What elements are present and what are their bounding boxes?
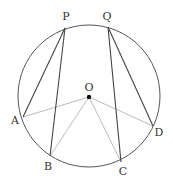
chord-QD: [108, 27, 153, 126]
label-P: P: [62, 10, 70, 23]
label-A: A: [10, 114, 20, 127]
label-O: O: [84, 81, 93, 94]
radii-group: [23, 97, 153, 162]
label-B: B: [44, 160, 52, 173]
radius-OD: [89, 97, 153, 126]
chord-QC: [108, 27, 121, 162]
circle-diagram: O PQABCD: [0, 0, 173, 187]
chords-group: [23, 27, 153, 162]
label-D: D: [155, 126, 164, 139]
center-point-O: [87, 95, 91, 99]
labels-group: O PQABCD: [10, 10, 164, 178]
label-Q: Q: [102, 10, 111, 23]
label-C: C: [119, 165, 127, 178]
